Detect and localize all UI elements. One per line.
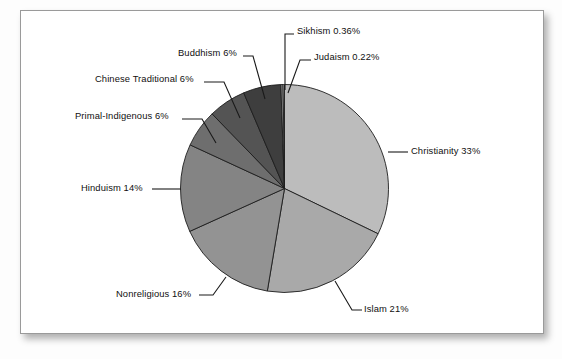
pie-label-nonreligious: Nonreligious 16%	[116, 288, 191, 299]
pie-label-chinese-traditional: Chinese Traditional 6%	[95, 73, 194, 84]
pie-label-primal-indigenous: Primal-Indigenous 6%	[75, 110, 169, 121]
pie-label-islam: Islam 21%	[364, 303, 409, 314]
pie-label-hinduism: Hinduism 14%	[81, 182, 143, 193]
pie-label-christianity: Christianity 33%	[411, 145, 480, 156]
pie-label-judaism: Judaism 0.22%	[314, 51, 379, 62]
pie-label-buddhism: Buddhism 6%	[178, 47, 237, 58]
pie-label-sikhism: Sikhism 0.36%	[297, 25, 360, 36]
screenshot-canvas: Sikhism 0.36% Judaism 0.22% Buddhism 6% …	[0, 0, 562, 359]
chart-frame-panel	[20, 10, 544, 334]
